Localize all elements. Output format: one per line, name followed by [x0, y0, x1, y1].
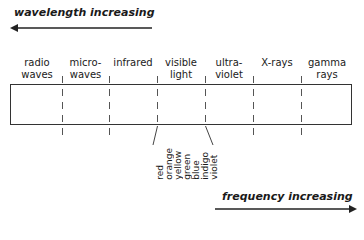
band-radio-waves: radio waves [12, 57, 62, 81]
band-ultraviolet: ultra- violet [205, 57, 253, 81]
band-infrared: infrared [109, 57, 157, 69]
color-violet: violet [210, 148, 219, 180]
arrow-left-icon [10, 24, 18, 32]
spectrum-box [10, 84, 352, 125]
arrow-right-icon [349, 205, 357, 213]
band-microwaves: micro- waves [62, 57, 109, 81]
band-gamma-rays: gamma rays [301, 57, 353, 81]
visible-colors-list: red orange yellow green blue indigo viol… [156, 148, 219, 180]
band-visible-light: visible light [157, 57, 205, 81]
band-x-rays: X-rays [253, 57, 301, 69]
